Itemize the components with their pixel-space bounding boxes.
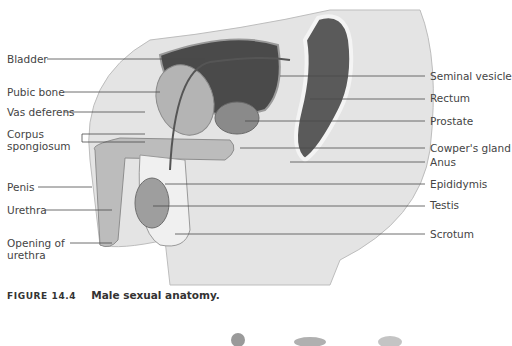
figure-number: FIGURE 14.4: [7, 291, 76, 301]
label-penis: Penis: [7, 181, 34, 193]
label-corpus-spongiosum-line1: Corpus: [7, 128, 44, 140]
label-cowpers-gland: Cowper's gland: [430, 142, 511, 154]
label-seminal-vesicle: Seminal vesicle: [430, 70, 512, 82]
label-urethra: Urethra: [7, 204, 47, 216]
label-rectum: Rectum: [430, 92, 470, 104]
label-prostate: Prostate: [430, 115, 473, 127]
figure-caption: FIGURE 14.4 Male sexual anatomy.: [7, 289, 220, 301]
label-opening-of-urethra-line1: Opening of: [7, 237, 65, 249]
next-figure-partial: [200, 326, 410, 346]
label-testis: Testis: [430, 199, 459, 211]
label-anus: Anus: [430, 156, 456, 168]
label-corpus-spongiosum-line2: spongiosum: [7, 140, 71, 152]
figure-title: Male sexual anatomy.: [91, 289, 220, 301]
label-scrotum: Scrotum: [430, 228, 474, 240]
label-vas-deferens: Vas deferens: [7, 106, 75, 118]
label-opening-of-urethra-line2: urethra: [7, 249, 46, 261]
label-pubic-bone: Pubic bone: [7, 86, 65, 98]
label-bladder: Bladder: [7, 53, 48, 65]
label-epididymis: Epididymis: [430, 178, 487, 190]
anatomy-figure: Bladder Pubic bone Vas deferens Corpus s…: [0, 0, 508, 290]
